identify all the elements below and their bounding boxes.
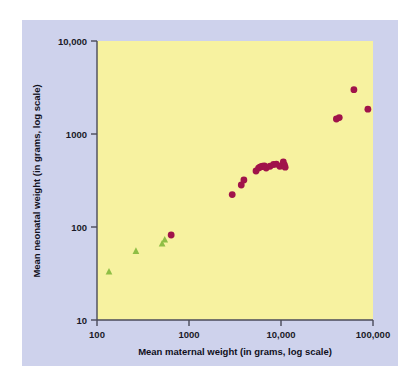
x-tick-label: 100,000 (356, 329, 390, 340)
y-axis-ticks: 10100100010,000 (58, 36, 97, 326)
y-tick-label: 100 (71, 222, 87, 233)
scatter-chart: 10100100010,000 100100010,000100,000 Mea… (0, 0, 414, 379)
plot-area (97, 41, 373, 320)
x-tick-label: 10,000 (266, 329, 295, 340)
data-point-circle (229, 191, 236, 198)
y-axis-title: Mean neonatal weight (in grams, log scal… (31, 84, 42, 277)
figure-root: 10100100010,000 100100010,000100,000 Mea… (0, 0, 414, 379)
data-point-circle (351, 86, 358, 93)
y-tick-label: 1000 (66, 129, 87, 140)
data-point-circle (240, 177, 247, 184)
x-axis-ticks: 100100010,000100,000 (89, 320, 390, 340)
x-tick-label: 100 (89, 329, 105, 340)
y-tick-label: 10 (76, 315, 87, 326)
data-point-circle (168, 232, 175, 239)
x-tick-label: 1000 (178, 329, 199, 340)
x-axis-title: Mean maternal weight (in grams, log scal… (138, 346, 332, 357)
data-point-circle (282, 164, 289, 171)
y-tick-label: 10,000 (58, 36, 87, 47)
data-point-circle (336, 114, 343, 121)
data-point-circle (364, 106, 371, 113)
